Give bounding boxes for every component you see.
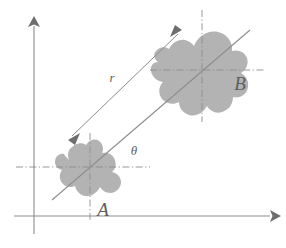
angle-line-group	[52, 30, 250, 200]
shape-a-blob	[55, 140, 121, 197]
radius-label: r	[109, 70, 115, 85]
figure-container: r θ A B	[0, 0, 286, 248]
shape-a-group	[55, 140, 121, 197]
y-axis-arrowhead-icon	[28, 16, 40, 27]
shape-b-label: B	[234, 73, 246, 94]
angle-label: θ	[131, 143, 138, 158]
shape-a-label: A	[95, 199, 109, 220]
radius-arrowhead-start-icon	[68, 133, 80, 145]
x-axis-arrowhead-icon	[270, 210, 281, 222]
radius-arrowhead-end-icon	[170, 25, 182, 37]
angle-line	[52, 30, 250, 200]
polar-displacement-diagram: r θ A B	[0, 0, 286, 248]
